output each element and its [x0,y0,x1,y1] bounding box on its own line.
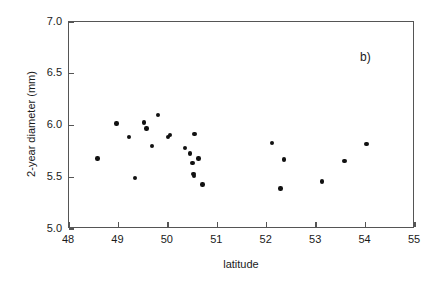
x-tick-mark [414,222,415,227]
x-tick-mark [217,222,218,227]
x-tick-label: 53 [295,233,335,246]
x-tick-mark [68,222,69,227]
data-point [200,182,204,186]
data-point [196,156,200,160]
x-tick-label: 55 [394,233,434,246]
data-point [188,151,192,155]
x-tick-label: 54 [345,233,385,246]
y-tick-mark [69,125,74,126]
data-point [133,176,137,180]
data-point [142,120,146,124]
data-point [190,161,194,165]
data-point [192,174,196,178]
data-point [156,113,160,117]
x-tick-label: 49 [97,233,137,246]
x-tick-label: 48 [48,233,88,246]
scatter-plot-figure: 4849505152535455 5.05.56.06.57.0 latitud… [0,0,439,299]
data-point [144,126,148,130]
x-tick-mark [167,222,168,227]
data-point [192,132,196,136]
y-tick-mark [69,73,74,74]
data-point [127,135,131,139]
y-tick-mark [69,21,74,22]
data-point [95,156,99,160]
x-tick-label: 50 [147,233,187,246]
data-point [278,186,282,190]
data-point [168,133,172,137]
panel-label: b) [360,50,371,64]
data-point [364,142,368,146]
x-tick-mark [315,222,316,227]
data-point [282,157,286,161]
x-tick-mark [365,222,366,227]
x-tick-label: 51 [196,233,236,246]
data-point [320,179,324,183]
y-tick-mark [69,228,74,229]
x-tick-mark [266,222,267,227]
y-axis-title: 2-year diameter (mm) [25,24,37,224]
data-point [270,141,274,145]
x-axis-title: latitude [68,258,414,270]
y-tick-mark [69,177,74,178]
data-point [150,144,154,148]
data-point [342,159,346,163]
data-point [183,146,187,150]
x-tick-mark [118,222,119,227]
data-point [114,121,118,125]
x-tick-label: 52 [246,233,286,246]
